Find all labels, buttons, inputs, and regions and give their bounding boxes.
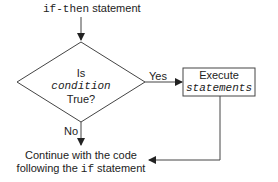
end-line2-code: if xyxy=(81,163,94,175)
yes-label: Yes xyxy=(149,70,167,83)
process-label: Execute statements xyxy=(183,69,255,95)
decision-condition: condition xyxy=(41,80,121,93)
end-line2-post: statement xyxy=(94,162,145,174)
no-label: No xyxy=(64,125,78,138)
end-line2-pre: following the xyxy=(17,162,81,174)
end-line1: Continue with the code xyxy=(14,149,148,162)
title-text: statement xyxy=(89,2,140,14)
decision-line1: Is xyxy=(41,67,121,80)
process-statements: statements xyxy=(183,82,255,95)
end-label: Continue with the code following the if … xyxy=(14,149,148,176)
process-line1: Execute xyxy=(183,69,255,82)
title-code: if-then xyxy=(43,3,89,15)
decision-label: Is condition True? xyxy=(41,67,121,106)
end-line2: following the if statement xyxy=(14,162,148,176)
arrow-process-to-end xyxy=(149,96,220,160)
title-label: if-then statement xyxy=(43,2,141,16)
decision-line3: True? xyxy=(41,93,121,106)
